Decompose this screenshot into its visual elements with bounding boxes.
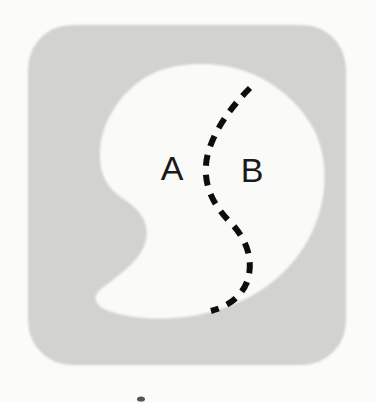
scan-speck [137,396,145,401]
region-partition-figure: A B [0,0,376,403]
region-label-a: A [161,149,184,187]
region-label-b: B [241,151,264,189]
figure-root: A B [0,0,376,403]
